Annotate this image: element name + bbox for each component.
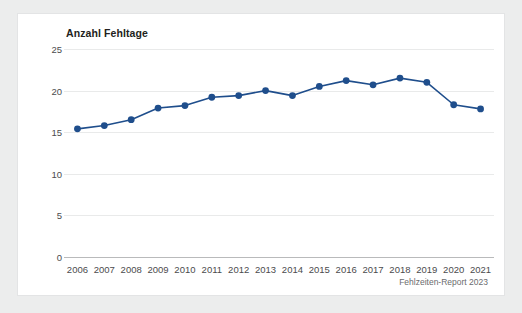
data-point-marker: 2015: 20.5 — [316, 83, 323, 90]
chart-card: Anzahl Fehltage 0510152025 2006200720082… — [17, 13, 505, 296]
data-point-marker: 2016: 21.2 — [343, 77, 350, 84]
data-point-marker: 2020: 18.3 — [450, 101, 457, 108]
data-point-marker: 2019: 21 — [423, 79, 430, 86]
data-point-marker: 2008: 16.5 — [128, 116, 135, 123]
data-point-marker: 2014: 19.4 — [289, 92, 296, 99]
data-point-marker: 2017: 20.7 — [370, 81, 377, 88]
data-point-marker: 2009: 17.9 — [155, 105, 162, 112]
data-point-marker: 2013: 20 — [262, 87, 269, 94]
data-point-marker: 2007: 15.8 — [101, 122, 108, 129]
screenshot-root: Anzahl Fehltage 0510152025 2006200720082… — [0, 0, 522, 313]
chart-plot-area: 0510152025 20062007200820092010201120122… — [18, 14, 506, 297]
data-point-marker: 2006: 15.4 — [74, 125, 81, 132]
data-point-marker: 2018: 21.5 — [397, 75, 404, 82]
data-point-marker: 2011: 19.2 — [208, 94, 215, 101]
data-point-marker: 2010: 18.2 — [182, 102, 189, 109]
data-point-marker: 2012: 19.4 — [235, 92, 242, 99]
source-note: Fehlzeiten-Report 2023 — [399, 277, 488, 287]
series-line — [77, 78, 480, 129]
data-point-marker: 2021: 17.8 — [477, 106, 484, 113]
line-series-layer: 2006: 15.42007: 15.82008: 16.52009: 17.9… — [18, 14, 506, 297]
